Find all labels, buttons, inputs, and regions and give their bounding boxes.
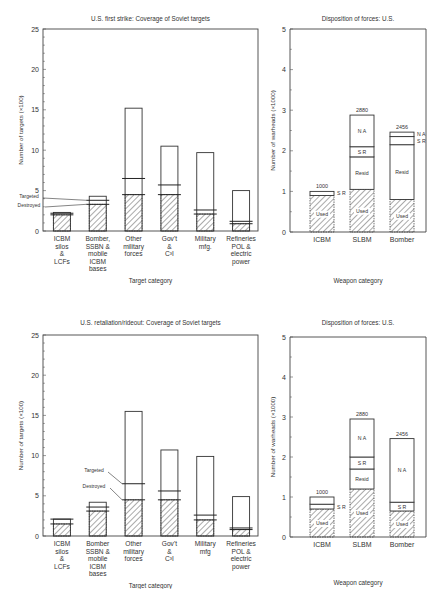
- y-tick-label: 15: [31, 412, 39, 419]
- y-tick-label: 4: [282, 374, 286, 381]
- bar-total-label: 2880: [356, 107, 368, 113]
- y-tick-label: 0: [282, 534, 286, 541]
- destroyed-bar: [161, 195, 178, 231]
- figure-canvas: U.S. first strike: Coverage of Soviet ta…: [0, 0, 443, 589]
- destroyed-bar: [197, 520, 214, 536]
- segment-na: [310, 497, 334, 504]
- category-label: forces: [125, 250, 144, 257]
- y-tick-label: 0: [35, 533, 39, 540]
- bar-group: [158, 146, 181, 231]
- category-label: forces: [125, 555, 144, 562]
- category-label: Refineries: [226, 235, 256, 242]
- category-label: C³I: [165, 250, 174, 257]
- category-label: Bomber: [390, 236, 415, 243]
- segment-label: S R: [398, 504, 407, 510]
- y-tick-label: 1: [282, 188, 286, 195]
- segment-label: N A: [358, 128, 367, 134]
- chart-first-strike-coverage: U.S. first strike: Coverage of Soviet ta…: [17, 15, 258, 285]
- category-label: POL &: [231, 548, 251, 555]
- segment-sr: [310, 504, 334, 509]
- category-label: mfg: [200, 548, 211, 556]
- bar-total-label: 1000: [316, 489, 328, 495]
- chart-retaliation-coverage: U.S. retaliation/rideout: Coverage of So…: [17, 319, 258, 589]
- bar-group: [158, 450, 181, 536]
- y-tick-label: 15: [31, 106, 39, 113]
- stacked-bar: UsedS RN A: [390, 439, 414, 537]
- y-tick-label: 3: [282, 414, 286, 421]
- segment-sr: [390, 137, 414, 145]
- segment-na: [390, 132, 414, 136]
- destroyed-bar: [233, 530, 250, 536]
- chart-title: Disposition of forces: U.S.: [322, 319, 395, 327]
- bar-total-label: 2880: [356, 411, 368, 417]
- x-axis-label: Target category: [129, 277, 173, 285]
- category-label: ICBM: [313, 236, 331, 243]
- x-axis-label: Weapon category: [333, 277, 383, 285]
- bar-group: [194, 153, 217, 231]
- destroyed-bar: [53, 524, 70, 536]
- y-tick-label: 0: [282, 229, 286, 236]
- category-label: ICBM: [90, 258, 106, 265]
- bar-total-label: 2456: [396, 124, 408, 130]
- bar-total-label: 1000: [316, 183, 328, 189]
- category-label: power: [232, 258, 251, 266]
- y-tick-label: 2: [282, 454, 286, 461]
- y-tick-label: 5: [282, 26, 286, 33]
- targeted-arrow: [43, 198, 86, 200]
- y-axis-label: Number of targets (×100): [17, 401, 24, 470]
- chart-first-strike-disposition: Disposition of forces: U.S.012345Number …: [269, 15, 426, 285]
- bar-group: [122, 108, 145, 231]
- category-label: silos: [55, 243, 69, 250]
- category-label: mobile: [88, 250, 108, 257]
- y-axis-label: Number of warheads (×1000): [269, 397, 276, 478]
- category-label: Bomber: [390, 541, 415, 548]
- destroyed-bar: [125, 500, 142, 536]
- bar-group: [194, 456, 217, 536]
- y-tick-label: 10: [31, 452, 39, 459]
- category-label: electric: [231, 250, 253, 257]
- bar-group: [50, 212, 73, 231]
- y-tick-label: 4: [282, 66, 286, 73]
- category-label: Refineries: [226, 540, 256, 547]
- bar-total-label: 2456: [396, 431, 408, 437]
- targeted-annotation: Targeted: [19, 193, 39, 199]
- category-label: ICBM: [54, 235, 70, 242]
- bar-group: [230, 191, 253, 231]
- chart-title: U.S. retaliation/rideout: Coverage of So…: [80, 319, 220, 327]
- segment-label: S R: [358, 149, 367, 155]
- segment-label: Used: [316, 211, 328, 217]
- segment-label: N A: [398, 467, 407, 473]
- category-label: LCFs: [54, 563, 70, 570]
- category-label: bases: [89, 570, 107, 577]
- category-label: power: [232, 563, 251, 571]
- category-label: POL &: [231, 243, 251, 250]
- y-tick-label: 1: [282, 494, 286, 501]
- stacked-bar: UsedS R: [310, 190, 346, 232]
- plot-frame: [43, 335, 258, 536]
- category-label: SLBM: [352, 541, 371, 548]
- destroyed-bar: [53, 215, 70, 231]
- category-label: ICBM: [54, 540, 70, 547]
- y-tick-label: 5: [282, 334, 286, 341]
- segment-side-label: S R: [337, 504, 346, 510]
- bar-group: [122, 411, 145, 536]
- y-tick-label: 25: [31, 332, 39, 339]
- x-axis-label: Weapon category: [333, 579, 383, 587]
- category-label: Gov't: [162, 235, 177, 242]
- chart-title: Disposition of forces: U.S.: [322, 15, 395, 23]
- bar-group: [50, 519, 73, 536]
- plot-frame: [43, 29, 258, 231]
- category-label: mfg.: [199, 243, 212, 251]
- chart-retaliation-disposition: Disposition of forces: U.S.012345Number …: [269, 319, 426, 587]
- destroyed-bar: [125, 195, 142, 231]
- segment-label: Used: [396, 521, 408, 527]
- y-tick-label: 5: [35, 492, 39, 499]
- segment-label: Used: [396, 213, 408, 219]
- destroyed-annotation: Destroyed: [83, 483, 106, 489]
- segment-label: N A: [358, 435, 367, 441]
- category-label: Other: [125, 235, 142, 242]
- category-label: Other: [125, 540, 142, 547]
- segment-label: Resid: [355, 170, 368, 176]
- bar-group: [230, 497, 253, 536]
- y-tick-label: 3: [282, 107, 286, 114]
